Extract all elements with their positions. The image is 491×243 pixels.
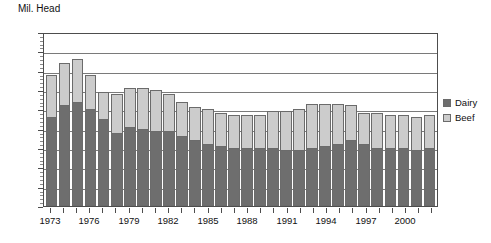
- bar-segment-dairy[interactable]: [85, 109, 97, 206]
- bar-segment-dairy[interactable]: [46, 117, 58, 206]
- x-axis-tick-mark: [208, 208, 209, 213]
- bar-segment-dairy[interactable]: [332, 144, 344, 206]
- bar-segment-dairy[interactable]: [228, 148, 240, 206]
- bar-segment-beef[interactable]: [124, 88, 136, 127]
- bar-segment-dairy[interactable]: [189, 140, 201, 206]
- bar-segment-dairy[interactable]: [398, 148, 410, 206]
- bar-segment-beef[interactable]: [202, 109, 214, 144]
- bar-segment-dairy[interactable]: [306, 148, 318, 206]
- bar-segment-beef[interactable]: [150, 90, 162, 131]
- bar-column[interactable]: [411, 34, 423, 206]
- bar-column[interactable]: [150, 34, 162, 206]
- bar-segment-dairy[interactable]: [385, 148, 397, 206]
- bar-segment-beef[interactable]: [215, 113, 227, 146]
- bar-column[interactable]: [319, 34, 331, 206]
- bar-segment-dairy[interactable]: [267, 148, 279, 206]
- bar-column[interactable]: [202, 34, 214, 206]
- bar-column[interactable]: [306, 34, 318, 206]
- bar-column[interactable]: [293, 34, 305, 206]
- bar-segment-beef[interactable]: [189, 107, 201, 140]
- bar-segment-beef[interactable]: [411, 117, 423, 150]
- x-axis-tick-label: 1973: [39, 215, 60, 226]
- bar-segment-dairy[interactable]: [319, 146, 331, 206]
- bar-segment-beef[interactable]: [371, 113, 383, 148]
- bar-column[interactable]: [46, 34, 58, 206]
- bar-segment-dairy[interactable]: [176, 136, 188, 206]
- bar-column[interactable]: [176, 34, 188, 206]
- x-axis-tick-label: 1982: [157, 215, 178, 226]
- bar-segment-dairy[interactable]: [124, 127, 136, 206]
- bar-column[interactable]: [398, 34, 410, 206]
- bar-column[interactable]: [215, 34, 227, 206]
- bar-column[interactable]: [254, 34, 266, 206]
- bar-column[interactable]: [189, 34, 201, 206]
- bar-segment-dairy[interactable]: [411, 150, 423, 206]
- bar-segment-dairy[interactable]: [72, 102, 84, 206]
- x-axis-tick-mark: [129, 208, 130, 213]
- bar-segment-dairy[interactable]: [137, 129, 149, 206]
- bar-segment-dairy[interactable]: [111, 133, 123, 206]
- bar-segment-beef[interactable]: [59, 63, 71, 106]
- bar-segment-beef[interactable]: [176, 102, 188, 137]
- bar-column[interactable]: [163, 34, 175, 206]
- bar-column[interactable]: [228, 34, 240, 206]
- bar-segment-beef[interactable]: [137, 88, 149, 129]
- x-axis-tick-mark: [142, 208, 143, 213]
- bar-segment-beef[interactable]: [98, 92, 110, 119]
- bar-column[interactable]: [241, 34, 253, 206]
- bar-segment-beef[interactable]: [345, 105, 357, 140]
- y-axis-tick-mark: [38, 207, 43, 208]
- bar-column[interactable]: [358, 34, 370, 206]
- bar-segment-dairy[interactable]: [98, 119, 110, 206]
- bar-column[interactable]: [72, 34, 84, 206]
- bar-segment-dairy[interactable]: [280, 150, 292, 206]
- bar-segment-beef[interactable]: [280, 111, 292, 150]
- bar-segment-dairy[interactable]: [150, 131, 162, 206]
- bar-segment-dairy[interactable]: [241, 148, 253, 206]
- bar-segment-dairy[interactable]: [424, 148, 436, 206]
- bar-column[interactable]: [98, 34, 110, 206]
- bar-column[interactable]: [371, 34, 383, 206]
- bar-column[interactable]: [85, 34, 97, 206]
- bar-column[interactable]: [280, 34, 292, 206]
- bar-segment-dairy[interactable]: [358, 144, 370, 206]
- bar-column[interactable]: [137, 34, 149, 206]
- bar-segment-dairy[interactable]: [254, 148, 266, 206]
- bar-segment-beef[interactable]: [46, 75, 58, 118]
- bar-segment-beef[interactable]: [398, 115, 410, 148]
- bar-segment-dairy[interactable]: [163, 131, 175, 206]
- bar-segment-beef[interactable]: [385, 115, 397, 148]
- bar-segment-dairy[interactable]: [293, 150, 305, 206]
- bar-segment-beef[interactable]: [332, 104, 344, 145]
- bar-segment-beef[interactable]: [111, 94, 123, 133]
- bar-segment-dairy[interactable]: [371, 148, 383, 206]
- bar-segment-beef[interactable]: [293, 109, 305, 150]
- bar-segment-beef[interactable]: [267, 111, 279, 148]
- bar-column[interactable]: [345, 34, 357, 206]
- bar-column[interactable]: [385, 34, 397, 206]
- x-axis-tick-mark: [50, 208, 51, 213]
- bar-segment-beef[interactable]: [306, 104, 318, 148]
- bar-segment-beef[interactable]: [85, 75, 97, 110]
- bar-column[interactable]: [424, 34, 436, 206]
- bar-column[interactable]: [124, 34, 136, 206]
- x-axis-tick-mark: [392, 208, 393, 213]
- bar-segment-beef[interactable]: [319, 104, 331, 147]
- x-axis-tick-mark: [418, 208, 419, 213]
- bar-series-container: [44, 34, 437, 206]
- bar-segment-beef[interactable]: [241, 115, 253, 148]
- bar-segment-beef[interactable]: [163, 94, 175, 131]
- bar-segment-beef[interactable]: [254, 115, 266, 148]
- bar-segment-beef[interactable]: [358, 113, 370, 144]
- bar-segment-beef[interactable]: [72, 59, 84, 102]
- bar-segment-dairy[interactable]: [59, 105, 71, 206]
- bar-column[interactable]: [332, 34, 344, 206]
- bar-segment-beef[interactable]: [424, 115, 436, 148]
- bar-column[interactable]: [59, 34, 71, 206]
- bar-segment-dairy[interactable]: [202, 144, 214, 206]
- bar-segment-dairy[interactable]: [345, 140, 357, 206]
- bar-segment-beef[interactable]: [228, 115, 240, 148]
- bar-segment-dairy[interactable]: [215, 146, 227, 206]
- bar-column[interactable]: [267, 34, 279, 206]
- bar-column[interactable]: [111, 34, 123, 206]
